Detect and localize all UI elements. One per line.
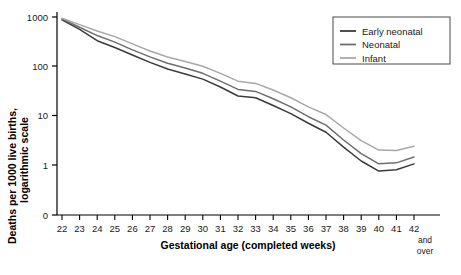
x-tick-label: 26 — [127, 223, 138, 234]
y-tick-label: 10 — [37, 110, 48, 121]
x-axis-last-tick-note-2: over — [417, 246, 434, 256]
y-axis-ticks — [52, 17, 57, 215]
legend-label: Neonatal — [362, 39, 400, 50]
x-tick-label: 40 — [374, 223, 385, 234]
x-tick-label: 25 — [110, 223, 121, 234]
x-tick-label: 33 — [250, 223, 261, 234]
y-axis-title-line1: Deaths per 1000 live births, — [6, 108, 18, 244]
chart-page: 10001001010 2223242526272829303132333435… — [0, 0, 461, 275]
y-tick-label: 0 — [43, 210, 48, 221]
y-axis-title-line2: logarithmic scale — [18, 117, 30, 203]
x-tick-label: 22 — [57, 223, 68, 234]
x-tick-label: 35 — [286, 223, 297, 234]
legend-label: Early neonatal — [362, 26, 423, 37]
x-tick-label: 23 — [74, 223, 85, 234]
x-tick-label: 41 — [391, 223, 402, 234]
x-axis-ticks — [62, 215, 414, 220]
x-axis-title: Gestational age (completed weeks) — [160, 239, 335, 251]
y-tick-label: 1 — [43, 160, 48, 171]
x-tick-label: 38 — [338, 223, 349, 234]
x-tick-label: 42 — [409, 223, 420, 234]
x-tick-label: 31 — [215, 223, 226, 234]
x-tick-label: 32 — [233, 223, 244, 234]
x-tick-label: 30 — [198, 223, 209, 234]
legend-label: Infant — [362, 53, 386, 64]
y-axis-tick-labels: 10001001010 — [27, 12, 48, 221]
x-tick-label: 24 — [92, 223, 103, 234]
line-chart: 10001001010 2223242526272829303132333435… — [0, 0, 461, 275]
y-tick-label: 1000 — [27, 12, 48, 23]
y-tick-label: 100 — [32, 61, 48, 72]
x-tick-label: 34 — [268, 223, 279, 234]
x-tick-label: 37 — [321, 223, 332, 234]
x-tick-label: 28 — [162, 223, 173, 234]
x-axis-tick-labels: 2223242526272829303132333435363738394041… — [57, 223, 420, 234]
x-tick-label: 39 — [356, 223, 367, 234]
x-tick-label: 27 — [145, 223, 156, 234]
x-tick-label: 29 — [180, 223, 191, 234]
x-axis-last-tick-note-1: and — [418, 235, 432, 245]
chart-legend: Early neonatalNeonatalInfant — [333, 17, 450, 64]
x-tick-label: 36 — [303, 223, 314, 234]
